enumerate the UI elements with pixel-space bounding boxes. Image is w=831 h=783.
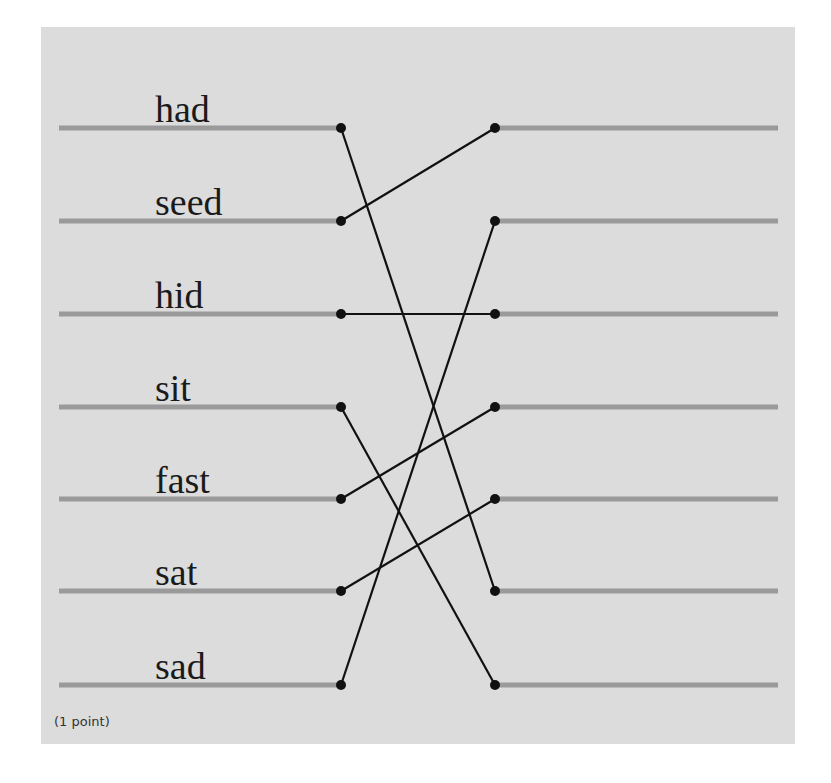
word-sad: sad: [155, 647, 206, 685]
points-note: (1 point): [54, 714, 110, 729]
left-dot-7[interactable]: [336, 680, 346, 690]
word-sit: sit: [155, 369, 191, 407]
word-had: had: [155, 90, 210, 128]
connector-had[interactable]: [341, 128, 495, 591]
left-dot-4[interactable]: [336, 402, 346, 412]
right-dot-2[interactable]: [490, 216, 500, 226]
left-dot-3[interactable]: [336, 309, 346, 319]
word-seed: seed: [155, 183, 223, 221]
connector-seed[interactable]: [341, 128, 495, 221]
connector-lines: [341, 128, 495, 685]
right-dot-3[interactable]: [490, 309, 500, 319]
left-dot-5[interactable]: [336, 494, 346, 504]
left-dot-2[interactable]: [336, 216, 346, 226]
word-hid: hid: [155, 276, 204, 314]
right-dot-7[interactable]: [490, 680, 500, 690]
right-dot-4[interactable]: [490, 402, 500, 412]
left-dot-6[interactable]: [336, 586, 346, 596]
word-sat: sat: [155, 553, 197, 591]
left-dot-1[interactable]: [336, 123, 346, 133]
right-dot-6[interactable]: [490, 586, 500, 596]
right-dot-5[interactable]: [490, 494, 500, 504]
word-fast: fast: [155, 461, 210, 499]
matching-diagram: [0, 0, 831, 783]
right-dot-1[interactable]: [490, 123, 500, 133]
connector-sad[interactable]: [341, 221, 495, 685]
connector-sat[interactable]: [341, 499, 495, 591]
